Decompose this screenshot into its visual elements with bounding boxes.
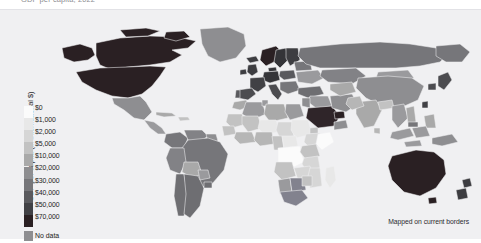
legend-no-data-entry[interactable]: No data — [24, 230, 94, 243]
legend-tick-label: $50,000 — [35, 199, 85, 211]
legend-swatch[interactable] — [24, 130, 33, 142]
legend-swatch[interactable] — [24, 154, 33, 166]
legend-tick-label: $5,000 — [35, 138, 85, 150]
legend-swatch[interactable] — [24, 118, 33, 130]
region-eritrea-djibouti[interactable] — [310, 127, 318, 134]
chart-page: GDP per capita, 2022 — [0, 0, 481, 243]
region-sri-lanka[interactable] — [374, 128, 380, 134]
region-zimbabwe[interactable] — [302, 176, 312, 186]
legend-tick-label: $2,000 — [35, 126, 85, 138]
legend-swatch[interactable] — [24, 203, 33, 215]
legend-tick-labels: $0$1,000$2,000$5,000$10,000$20,000$30,00… — [35, 102, 85, 223]
region-hispaniola[interactable] — [178, 117, 190, 121]
legend-swatch[interactable] — [24, 142, 33, 154]
legend-swatch[interactable] — [24, 106, 33, 118]
region-malaysia[interactable] — [408, 122, 418, 127]
no-data-swatch — [24, 231, 33, 241]
region-uruguay[interactable] — [204, 182, 212, 188]
title-strip: GDP per capita, 2022 — [0, 0, 481, 9]
chart-frame: GDP per capita (in international $) $0$1… — [0, 9, 481, 238]
region-new-zealand-north[interactable] — [462, 178, 472, 188]
legend-tick-label: $30,000 — [35, 175, 85, 187]
region-vietnam[interactable] — [406, 106, 416, 124]
region-yemen-oman[interactable] — [334, 120, 348, 130]
legend-tick-label: $10,000 — [35, 150, 85, 162]
region-taiwan[interactable] — [422, 101, 428, 108]
region-south-korea[interactable] — [428, 83, 436, 90]
legend-swatch[interactable] — [24, 167, 33, 179]
page-title: GDP per capita, 2022 — [21, 0, 95, 4]
region-israel-jordan[interactable] — [302, 98, 310, 108]
legend-tick-label: $70,000 — [35, 211, 85, 223]
no-data-label: No data — [35, 230, 59, 242]
region-uae-qatar[interactable] — [334, 111, 345, 119]
legend-tick-label: $0 — [35, 102, 85, 114]
region-nepal-bangladesh[interactable] — [378, 100, 394, 110]
map-footnote: Mapped on current borders — [388, 218, 469, 225]
legend-tick-label: $20,000 — [35, 162, 85, 174]
region-portugal[interactable] — [235, 90, 240, 98]
legend-tick-label: $1,000 — [35, 114, 85, 126]
legend-color-ramp — [24, 106, 33, 227]
region-senegal-guinea[interactable] — [222, 126, 236, 136]
region-tasmania[interactable] — [428, 197, 437, 204]
legend-tick-label: $40,000 — [35, 187, 85, 199]
legend-swatch[interactable] — [24, 215, 33, 227]
region-new-zealand-south[interactable] — [456, 188, 468, 200]
region-ireland[interactable] — [240, 69, 247, 75]
legend-swatch[interactable] — [24, 179, 33, 191]
map-legend: GDP per capita (in international $) $0$1… — [14, 98, 84, 243]
region-paraguay[interactable] — [198, 170, 210, 180]
legend-swatch[interactable] — [24, 191, 33, 203]
